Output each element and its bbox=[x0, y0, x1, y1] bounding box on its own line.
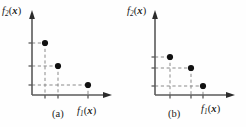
x-label-close-b: ) bbox=[217, 103, 221, 114]
data-point bbox=[85, 82, 91, 88]
x-label-close-a: ) bbox=[93, 105, 97, 116]
panel-b: f2(x) f1(x) (b) bbox=[123, 0, 246, 127]
data-point bbox=[188, 65, 194, 71]
figure-container: f2(x) f1(x) (a) bbox=[0, 0, 246, 127]
data-point bbox=[200, 83, 206, 89]
panel-b-plot bbox=[123, 0, 246, 127]
axes-a bbox=[29, 10, 112, 98]
axes-b bbox=[152, 10, 235, 98]
data-point bbox=[55, 63, 61, 69]
x-axis-arrowhead-icon bbox=[103, 92, 112, 98]
projection-lines-b bbox=[155, 57, 203, 95]
data-points-a bbox=[42, 40, 91, 88]
data-points-b bbox=[167, 54, 206, 89]
panel-a-y-axis-label: f2(x) bbox=[2, 6, 21, 18]
projection-lines-a bbox=[32, 43, 88, 95]
panel-a-caption: (a) bbox=[52, 109, 64, 120]
panel-b-x-axis-label: f1(x) bbox=[201, 104, 220, 116]
data-point bbox=[42, 40, 48, 46]
data-point bbox=[167, 54, 173, 60]
panel-a-x-axis-label: f1(x) bbox=[77, 106, 96, 118]
y-axis-arrowhead-icon bbox=[29, 10, 35, 19]
y-axis-arrowhead-icon bbox=[152, 10, 158, 19]
panel-b-y-axis-label: f2(x) bbox=[127, 6, 146, 18]
y-label-close-b: ) bbox=[143, 5, 147, 16]
panel-a: f2(x) f1(x) (a) bbox=[0, 0, 123, 127]
panel-b-caption: (b) bbox=[168, 109, 180, 120]
y-label-close-a: ) bbox=[18, 5, 22, 16]
x-axis-arrowhead-icon bbox=[226, 92, 235, 98]
